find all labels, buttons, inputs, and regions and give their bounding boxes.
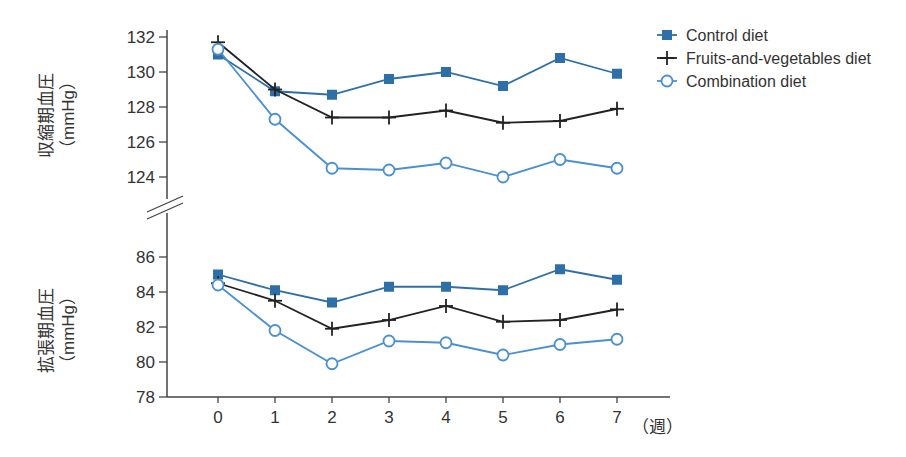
circle-marker (612, 163, 623, 174)
series-line (218, 285, 617, 364)
square-marker (555, 53, 565, 63)
square-marker (555, 264, 565, 274)
circle-marker (441, 158, 452, 169)
legend-label: Combination diet (686, 73, 807, 90)
x-tick-label: 2 (327, 408, 336, 427)
square-marker (327, 298, 337, 308)
blood-pressure-chart: 01234567（週）132130128126124収縮期血圧（mmHg）868… (0, 0, 906, 457)
square-marker (441, 282, 451, 292)
y-tick-label: 130 (127, 63, 155, 82)
square-marker (384, 282, 394, 292)
circle-marker (612, 334, 623, 345)
circle-marker (384, 165, 395, 176)
legend-label: Control diet (686, 27, 768, 44)
x-tick-label: 6 (555, 408, 564, 427)
y-tick-label: 78 (136, 388, 155, 407)
circle-marker (213, 280, 224, 291)
circle-marker (270, 325, 281, 336)
y-tick-label: 80 (136, 353, 155, 372)
square-marker (498, 81, 508, 91)
circle-marker (384, 336, 395, 347)
circle-marker (662, 76, 673, 87)
circle-marker (555, 154, 566, 165)
square-marker (612, 69, 622, 79)
square-marker (384, 74, 394, 84)
y-tick-label: 82 (136, 318, 155, 337)
square-marker (441, 67, 451, 77)
svg-text:（mmHg）: （mmHg） (59, 288, 78, 372)
y-tick-label: 84 (136, 283, 155, 302)
systolic-ylabel: 収縮期血圧（mmHg） (37, 73, 78, 158)
x-axis-unit: （週） (632, 418, 683, 437)
circle-marker (327, 163, 338, 174)
legend-label: Fruits-and-vegetables diet (686, 50, 872, 67)
diastolic-ylabel: 拡張期血圧（mmHg） (37, 288, 78, 373)
x-tick-label: 1 (270, 408, 279, 427)
circle-marker (555, 339, 566, 350)
y-tick-label: 124 (127, 168, 155, 187)
svg-text:収縮期血圧: 収縮期血圧 (37, 73, 56, 158)
svg-text:拡張期血圧: 拡張期血圧 (37, 288, 56, 373)
x-tick-label: 7 (612, 408, 621, 427)
y-tick-label: 126 (127, 133, 155, 152)
circle-marker (327, 358, 338, 369)
square-marker (612, 275, 622, 285)
square-marker (498, 285, 508, 295)
x-tick-label: 4 (441, 408, 450, 427)
x-tick-label: 5 (498, 408, 507, 427)
circle-marker (270, 114, 281, 125)
square-marker (327, 90, 337, 100)
svg-text:（mmHg）: （mmHg） (59, 73, 78, 157)
y-tick-label: 128 (127, 98, 155, 117)
circle-marker (498, 172, 509, 183)
x-tick-label: 3 (384, 408, 393, 427)
x-tick-label: 0 (213, 408, 222, 427)
y-tick-label: 86 (136, 248, 155, 267)
circle-marker (498, 350, 509, 361)
circle-marker (441, 337, 452, 348)
circle-marker (213, 44, 224, 55)
square-marker (662, 30, 672, 40)
y-tick-label: 132 (127, 28, 155, 47)
